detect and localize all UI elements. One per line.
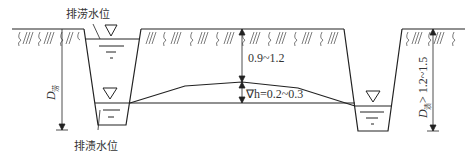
svg-text:渍: 渍 (423, 103, 432, 110)
drainage-ditch-diagram: 排涝水位 排渍水位 0.9~1.2 ∇h=0.2~0.3 D 涝 D 渍 > 1… (0, 0, 475, 159)
depth-top-label: 0.9~1.2 (248, 51, 285, 65)
dimension-lines (56, 24, 439, 131)
svg-text:> 1.2~1.5: > 1.2~1.5 (416, 57, 430, 103)
diagram-canvas: 排涝水位 排渍水位 0.9~1.2 ∇h=0.2~0.3 D 涝 D 渍 > 1… (0, 0, 475, 159)
svg-text:涝: 涝 (51, 85, 60, 92)
flood-level-label: 排涝水位 (66, 7, 110, 21)
delta-h-label: ∇h=0.2~0.3 (245, 87, 303, 101)
d-right-label: D 渍 > 1.2~1.5 (416, 57, 432, 119)
ground-lines (12, 29, 465, 131)
d-left-label: D 涝 (44, 85, 60, 101)
soil-hatching (18, 32, 455, 46)
waterlog-level-label: 排渍水位 (74, 139, 118, 153)
